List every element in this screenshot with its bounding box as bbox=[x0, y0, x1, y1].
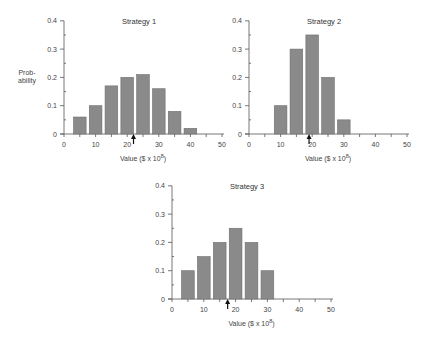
bar-25 bbox=[137, 75, 150, 134]
x-tick-label: 40 bbox=[187, 141, 195, 148]
x-tick-label: 20 bbox=[123, 141, 131, 148]
y-tick-label: 0.1 bbox=[232, 102, 242, 109]
y-tick-label: 0.3 bbox=[155, 211, 165, 218]
y-tick-label: 0 bbox=[161, 296, 165, 303]
bar-5 bbox=[182, 271, 195, 299]
chart-panel-strategy-3: 00.10.20.30.401020304050Strategy 3Value … bbox=[155, 182, 335, 328]
x-axis-label: Value ($ x 108) bbox=[305, 153, 351, 163]
y-tick-label: 0.3 bbox=[47, 46, 57, 53]
y-tick-label: 0.2 bbox=[155, 239, 165, 246]
y-axis-label-line2: ability bbox=[18, 77, 36, 85]
bar-15 bbox=[105, 86, 118, 134]
x-tick-label: 0 bbox=[170, 306, 174, 313]
arrowhead-icon bbox=[307, 134, 312, 139]
chart-panel-strategy-2: 00.10.20.30.401020304050Strategy 2Value … bbox=[232, 17, 411, 163]
x-tick-label: 50 bbox=[403, 141, 411, 148]
y-tick-label: 0.2 bbox=[232, 74, 242, 81]
bar-25 bbox=[322, 77, 335, 134]
y-tick-label: 0.4 bbox=[155, 182, 165, 189]
y-tick-label: 0.1 bbox=[47, 102, 57, 109]
y-tick-label: 0.1 bbox=[155, 267, 165, 274]
x-tick-label: 10 bbox=[92, 141, 100, 148]
x-tick-label: 50 bbox=[218, 141, 226, 148]
bar-15 bbox=[290, 49, 303, 134]
x-axis-label: Value ($ x 108) bbox=[120, 153, 166, 163]
bar-20 bbox=[121, 77, 134, 134]
x-tick-label: 20 bbox=[232, 306, 240, 313]
bar-40 bbox=[184, 128, 197, 134]
bar-15 bbox=[213, 242, 226, 299]
bar-25 bbox=[245, 242, 258, 299]
bar-5 bbox=[73, 117, 86, 134]
x-tick-label: 0 bbox=[62, 141, 66, 148]
bar-35 bbox=[168, 111, 181, 134]
chart-title: Strategy 2 bbox=[307, 17, 341, 26]
chart-title: Strategy 1 bbox=[122, 17, 156, 26]
x-tick-label: 30 bbox=[264, 306, 272, 313]
x-tick-label: 0 bbox=[247, 141, 251, 148]
arrowhead-icon bbox=[131, 134, 136, 139]
bar-10 bbox=[197, 257, 210, 299]
chart-panel-strategy-1: 00.10.20.30.401020304050Strategy 1Value … bbox=[47, 17, 226, 163]
x-tick-label: 30 bbox=[155, 141, 163, 148]
x-tick-label: 10 bbox=[200, 306, 208, 313]
chart-title: Strategy 3 bbox=[230, 182, 264, 191]
bar-10 bbox=[89, 106, 102, 134]
x-tick-label: 40 bbox=[295, 306, 303, 313]
arrowhead-icon bbox=[225, 299, 230, 304]
x-tick-label: 50 bbox=[327, 306, 335, 313]
y-tick-label: 0.3 bbox=[232, 46, 242, 53]
bar-30 bbox=[261, 271, 274, 299]
x-tick-label: 10 bbox=[277, 141, 285, 148]
bar-30 bbox=[337, 120, 350, 134]
bar-20 bbox=[306, 35, 319, 134]
y-axis-label-line1: Prob- bbox=[18, 69, 36, 76]
bar-10 bbox=[274, 106, 287, 134]
y-tick-label: 0 bbox=[238, 131, 242, 138]
bar-30 bbox=[152, 89, 165, 134]
y-tick-label: 0.2 bbox=[47, 74, 57, 81]
bar-20 bbox=[229, 228, 242, 299]
y-tick-label: 0 bbox=[53, 131, 57, 138]
x-axis-label: Value ($ x 108) bbox=[228, 318, 274, 328]
x-tick-label: 30 bbox=[340, 141, 348, 148]
y-tick-label: 0.4 bbox=[47, 17, 57, 24]
y-tick-label: 0.4 bbox=[232, 17, 242, 24]
x-tick-label: 40 bbox=[372, 141, 380, 148]
figure-canvas: Prob- ability 00.10.20.30.401020304050St… bbox=[0, 0, 423, 343]
